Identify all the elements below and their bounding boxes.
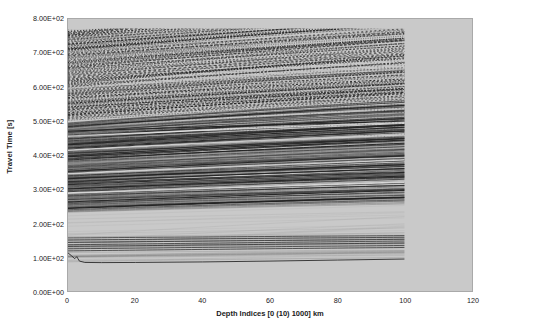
x-tick-label: 80 — [318, 296, 358, 305]
x-tick-label: 20 — [115, 296, 155, 305]
x-tick-label: 0 — [47, 296, 87, 305]
x-tick-label: 60 — [250, 296, 290, 305]
x-axis-title: Depth Indices [0 (10) 1000] km — [67, 309, 473, 318]
plot-traces — [68, 19, 472, 291]
plot-area — [67, 18, 473, 292]
travel-time-chart: Travel Time [s] 0.00E+001.00E+022.00E+02… — [0, 0, 534, 335]
x-tick-label: 120 — [453, 296, 493, 305]
x-tick-label: 100 — [385, 296, 425, 305]
x-tick-label: 40 — [182, 296, 222, 305]
